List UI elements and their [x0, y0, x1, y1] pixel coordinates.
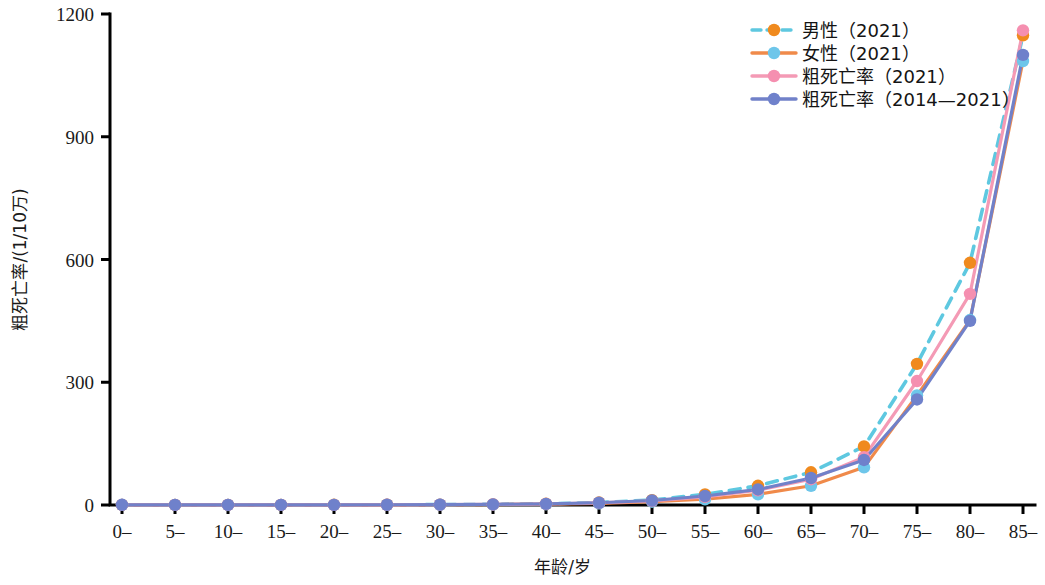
y-tick-label: 600 — [66, 250, 95, 271]
legend-label-1: 女性（2021） — [802, 43, 920, 64]
data-point — [964, 315, 976, 327]
legend-marker-0 — [768, 24, 780, 36]
chart-canvas: 03006009001200 0–5–10–15–20–25–30–35–40–… — [0, 0, 1045, 585]
x-tick-label: 15– — [267, 521, 296, 542]
data-point — [381, 499, 393, 511]
x-tick-label: 55– — [691, 521, 720, 542]
x-tick-label: 35– — [479, 521, 508, 542]
data-point — [1017, 49, 1029, 61]
data-point — [328, 499, 340, 511]
x-tick-label: 0– — [113, 521, 133, 542]
y-tick-label: 300 — [66, 372, 95, 393]
x-tick-label: 85– — [1009, 521, 1038, 542]
data-point — [646, 494, 658, 506]
x-tick-label: 20– — [320, 521, 349, 542]
chart-background — [0, 0, 1045, 585]
legend-label-2: 粗死亡率（2021） — [802, 66, 956, 87]
x-tick-label: 45– — [585, 521, 614, 542]
legend-label-3: 粗死亡率（2014—2021） — [802, 89, 1020, 110]
legend-marker-2 — [768, 70, 780, 82]
x-tick-label: 60– — [744, 521, 773, 542]
data-point — [858, 454, 870, 466]
data-point — [964, 257, 976, 269]
data-point — [222, 499, 234, 511]
data-point — [699, 490, 711, 502]
x-tick-label: 25– — [373, 521, 402, 542]
data-point — [858, 440, 870, 452]
y-tick-label: 900 — [66, 127, 95, 148]
data-point — [434, 498, 446, 510]
legend-label-0: 男性（2021） — [802, 20, 920, 41]
data-point — [116, 499, 128, 511]
x-tick-label: 80– — [956, 521, 985, 542]
data-point — [593, 497, 605, 509]
x-tick-label: 65– — [797, 521, 826, 542]
y-tick-label: 0 — [85, 495, 95, 516]
x-tick-label: 10– — [214, 521, 243, 542]
data-point — [805, 472, 817, 484]
x-tick-label: 5– — [166, 521, 186, 542]
x-tick-label: 30– — [426, 521, 455, 542]
data-point — [275, 499, 287, 511]
y-tick-label: 1200 — [56, 4, 94, 25]
data-point — [1017, 24, 1029, 36]
data-point — [911, 358, 923, 370]
line-chart: 03006009001200 0–5–10–15–20–25–30–35–40–… — [0, 0, 1045, 585]
legend-marker-3 — [768, 93, 780, 105]
x-tick-label: 50– — [638, 521, 667, 542]
x-axis-title: 年龄/岁 — [534, 557, 591, 577]
x-tick-label: 40– — [532, 521, 561, 542]
data-point — [964, 288, 976, 300]
data-point — [487, 498, 499, 510]
data-point — [911, 393, 923, 405]
data-point — [752, 483, 764, 495]
data-point — [911, 375, 923, 387]
legend-marker-1 — [768, 47, 780, 59]
x-tick-label: 75– — [903, 521, 932, 542]
x-tick-label: 70– — [850, 521, 879, 542]
y-axis-title: 粗死亡率/(1/10万) — [10, 188, 30, 330]
data-point — [540, 498, 552, 510]
data-point — [169, 499, 181, 511]
